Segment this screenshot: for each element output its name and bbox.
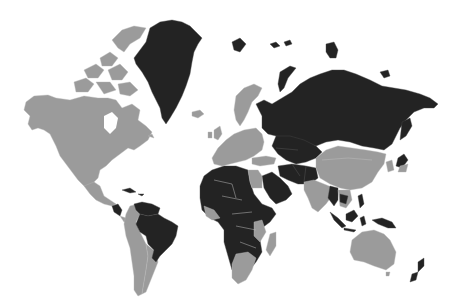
- region-mexico: [84, 182, 116, 206]
- region-java: [344, 228, 356, 232]
- asia-other: [304, 146, 408, 212]
- region-central-america: [112, 204, 122, 216]
- region-china-mongolia: [316, 146, 386, 190]
- region-turkey: [252, 156, 276, 166]
- region-sumatra: [330, 212, 346, 228]
- region-uk: [214, 126, 222, 140]
- region-iceland: [192, 110, 204, 118]
- region-sulawesi: [360, 216, 366, 226]
- region-cuba: [122, 188, 136, 193]
- region-franz-josef-land: [270, 40, 292, 48]
- region-novaya-zemlya: [278, 66, 296, 92]
- region-new-zealand: [410, 258, 424, 282]
- region-tasmania: [386, 272, 390, 276]
- region-madagascar: [266, 232, 276, 256]
- region-borneo: [346, 210, 358, 222]
- region-greenland: [134, 20, 202, 124]
- world-map: [0, 0, 464, 308]
- south-america: [124, 202, 178, 296]
- region-southern-africa: [232, 252, 256, 284]
- region-svalbard: [232, 38, 246, 52]
- region-canada-usa: [24, 95, 152, 190]
- southeast-asia: [328, 186, 396, 232]
- region-ireland: [208, 132, 212, 138]
- region-new-siberian-islands: [380, 70, 390, 78]
- region-philippines: [358, 194, 364, 208]
- region-papua-new-guinea: [372, 218, 396, 228]
- region-myanmar: [328, 186, 338, 206]
- region-australia: [350, 230, 396, 270]
- north-america: [24, 26, 154, 222]
- region-korea: [386, 160, 394, 172]
